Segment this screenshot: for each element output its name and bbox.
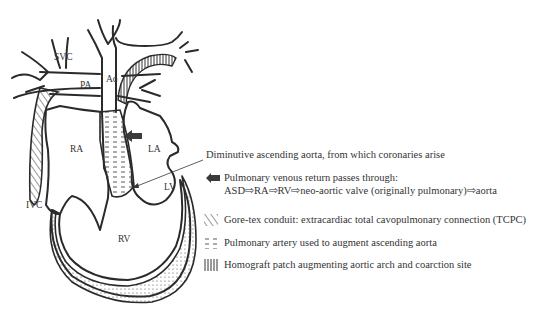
homograft-patch	[118, 54, 176, 104]
label-ivc: IVC	[26, 200, 42, 210]
vertical-stripes-icon	[204, 259, 218, 271]
horizontal-dashes-icon	[204, 237, 218, 249]
legend-label: Homograft patch augmenting aortic arch a…	[224, 258, 472, 271]
pa-augment-patch	[100, 110, 134, 197]
label-la: LA	[148, 144, 161, 154]
legend-item-pa-augment: Pulmonary artery used to augment ascendi…	[204, 236, 437, 249]
legend-item-homograft: Homograft patch augmenting aortic arch a…	[204, 258, 472, 271]
ascending-aorta-note: Diminutive ascending aorta, from which c…	[206, 148, 445, 161]
venous-return-arrow-icon	[206, 173, 220, 183]
label-lv: LV	[164, 182, 176, 192]
label-svc: SVC	[54, 52, 72, 62]
venous-return-path: ASD⇨RA⇨RV⇨neo-aortic valve (originally p…	[224, 184, 497, 197]
legend-item-gore-tex: Gore-tex conduit: extracardiac total cav…	[204, 213, 526, 226]
venous-return-title: Pulmonary venous return passes through:	[224, 171, 398, 184]
label-ra: RA	[70, 144, 83, 154]
label-pa: PA	[80, 80, 91, 90]
legend-label: Pulmonary artery used to augment ascendi…	[224, 236, 437, 249]
label-rv: RV	[118, 234, 131, 244]
gore-tex-conduit	[30, 88, 58, 205]
legend-label: Gore-tex conduit: extracardiac total cav…	[224, 213, 526, 226]
diagonal-hatch-icon	[204, 214, 218, 226]
label-ao: Ao	[106, 74, 118, 84]
